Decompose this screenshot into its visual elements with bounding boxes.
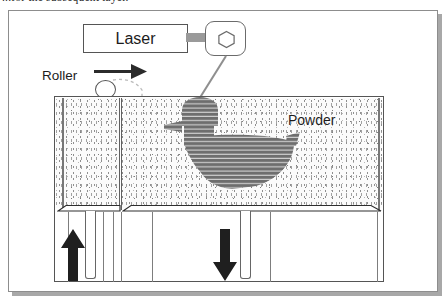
- sub-chamber-divider: [113, 212, 114, 282]
- figure-canvas: ...for the subsequent layer. Laser Rolle…: [0, 0, 447, 305]
- powder-label: Powder: [288, 112, 335, 128]
- sintered-part-duck: [160, 96, 310, 196]
- sub-chamber-divider: [152, 212, 153, 282]
- laser-source-box: Laser: [83, 24, 188, 53]
- chamber-divider-wall: [119, 98, 122, 210]
- frame-shadow-right: [438, 14, 442, 296]
- feed-piston-up-arrow-icon: [60, 228, 86, 282]
- sub-chamber-divider: [121, 212, 122, 282]
- frame-shadow-bottom: [12, 292, 442, 296]
- sub-chamber-divider: [377, 212, 378, 282]
- chamber-left-wall: [62, 98, 64, 210]
- sub-chamber-divider: [270, 212, 271, 282]
- laser-scanner-box: [205, 21, 246, 56]
- laser-label: Laser: [115, 30, 155, 48]
- build-piston-shaft: [240, 211, 251, 279]
- sub-chamber-divider: [103, 212, 104, 282]
- roller-label: Roller: [42, 68, 77, 83]
- build-piston-down-arrow-icon: [212, 228, 238, 282]
- chamber-right-wall: [378, 98, 380, 210]
- roller-direction-arrow-icon: [93, 60, 149, 80]
- feed-piston-shaft: [85, 211, 96, 279]
- hexagon-mirror-icon: [217, 30, 236, 49]
- caption-text: ...for the subsequent layer.: [0, 0, 447, 5]
- build-platform-plate: [122, 203, 382, 212]
